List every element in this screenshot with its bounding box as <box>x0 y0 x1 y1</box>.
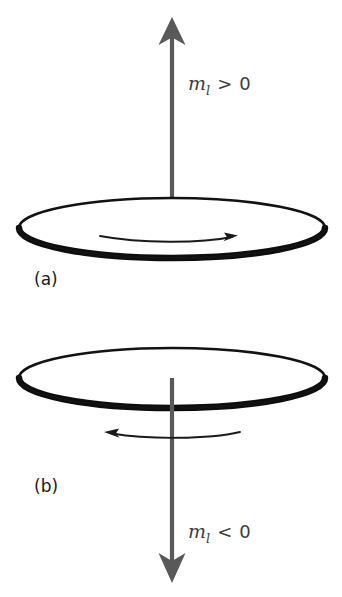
panel-b-label: (b) <box>34 476 58 496</box>
orbital-angular-momentum-figure: ml>0 (a) (b) <box>0 0 342 597</box>
panel-a-annotation-value: 0 <box>239 73 250 94</box>
panel-b-annotation-symbol: m <box>188 520 206 542</box>
panel-b-annotation-operator: < <box>217 521 232 542</box>
panel-a-annotation-symbol: m <box>188 72 206 94</box>
panel-b-annotation-value: 0 <box>239 521 250 542</box>
panel-a-orbit-disc <box>19 198 325 258</box>
figure-canvas: ml>0 (a) (b) <box>0 0 342 597</box>
panel-a-annotation-subscript: l <box>206 83 210 98</box>
panel-a-label: (a) <box>34 269 58 289</box>
panel-b-annotation-subscript: l <box>206 531 210 546</box>
panel-a-annotation-operator: > <box>217 73 232 94</box>
